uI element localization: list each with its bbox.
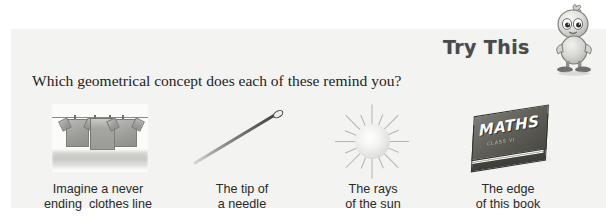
caption-line-2: a needle [218, 197, 266, 211]
worksheet-page: Geometry Understanding Elementary Shapes… [0, 0, 606, 224]
item-book: MATHS CLASS VI The edgeof this book [442, 104, 574, 212]
clothes-line-icon [32, 104, 164, 176]
maths-book-icon: MATHS CLASS VI [442, 104, 574, 176]
caption-line-1: The edge [481, 182, 534, 196]
needle-eye [271, 108, 284, 120]
item-caption: The raysof the sun [307, 182, 439, 212]
question-prompt: Which geometrical concept does each of t… [32, 72, 401, 90]
book-title-text: MATHS [478, 112, 539, 140]
item-sun: The raysof the sun [307, 104, 439, 212]
duckling-mascot-icon [546, 2, 602, 76]
item-caption: The edgeof this book [442, 182, 574, 212]
caption-line-2: of the sun [345, 197, 400, 211]
item-caption: The tip ofa needle [176, 182, 308, 212]
hanging-shirt [114, 119, 137, 147]
caption-line-2: ending clothes line [44, 197, 152, 211]
caption-line-1: The tip of [216, 182, 269, 196]
item-caption: Imagine a neverending clothes line [32, 182, 164, 212]
item-clothesline: Imagine a neverending clothes line [32, 104, 164, 212]
book-subtitle-text: CLASS VI [487, 137, 516, 147]
hanging-shirt [66, 119, 89, 147]
needle-icon [176, 104, 308, 176]
sun-icon [307, 104, 439, 176]
try-this-header: Try This [443, 36, 530, 58]
needle-shaft [193, 113, 277, 165]
caption-line-1: Imagine a never [53, 182, 143, 196]
item-needle: The tip ofa needle [176, 104, 308, 212]
caption-line-1: The rays [349, 182, 398, 196]
sun-disc [355, 124, 390, 159]
caption-line-2: of this book [476, 197, 540, 211]
grass-strip [52, 151, 148, 168]
